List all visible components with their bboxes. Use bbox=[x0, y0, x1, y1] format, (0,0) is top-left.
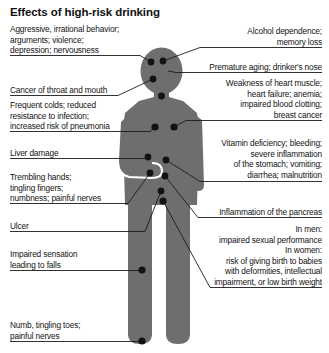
callout-sexual-reproductive: In men: impaired sexual performance In w… bbox=[107, 224, 322, 288]
callout-heart-muscle: Weakness of heart muscle; heart failure;… bbox=[122, 78, 322, 120]
dot-sexual-reproductive bbox=[159, 197, 166, 204]
callout-impaired-sensation: Impaired sensation leading to falls bbox=[10, 249, 77, 270]
callout-frequent-colds: Frequent colds; reduced resistance to in… bbox=[10, 100, 110, 132]
callout-pancreas: Inflammation of the pancreas bbox=[122, 207, 322, 218]
dot-heart-muscle bbox=[170, 123, 177, 130]
dot-numb-tingling-toes bbox=[138, 337, 145, 344]
callout-trembling-hands: Trembling hands; tingling fingers; numbn… bbox=[10, 172, 101, 204]
leader-alcohol-dependence bbox=[163, 48, 322, 62]
dot-frequent-colds bbox=[151, 123, 158, 130]
callout-alcohol-dependence: Alcohol dependence; memory loss bbox=[142, 26, 322, 47]
callout-vitamin-deficiency: Vitamin deficiency; bleeding; severe inf… bbox=[122, 138, 322, 180]
callout-ulcer: Ulcer bbox=[10, 221, 29, 232]
callout-premature-aging: Premature aging; drinker's nose bbox=[122, 62, 322, 73]
callout-behavior: Aggressive, irrational behavior; argumen… bbox=[10, 24, 119, 56]
callout-liver-damage: Liver damage bbox=[10, 148, 58, 159]
infographic-root: Effects of high-risk drinking bbox=[0, 0, 329, 353]
dot-ulcer bbox=[158, 188, 165, 195]
callout-cancer-throat-mouth: Cancer of throat and mouth bbox=[10, 85, 107, 96]
callout-numb-tingling-toes: Numb, tingling toes; painful nerves bbox=[10, 320, 80, 341]
